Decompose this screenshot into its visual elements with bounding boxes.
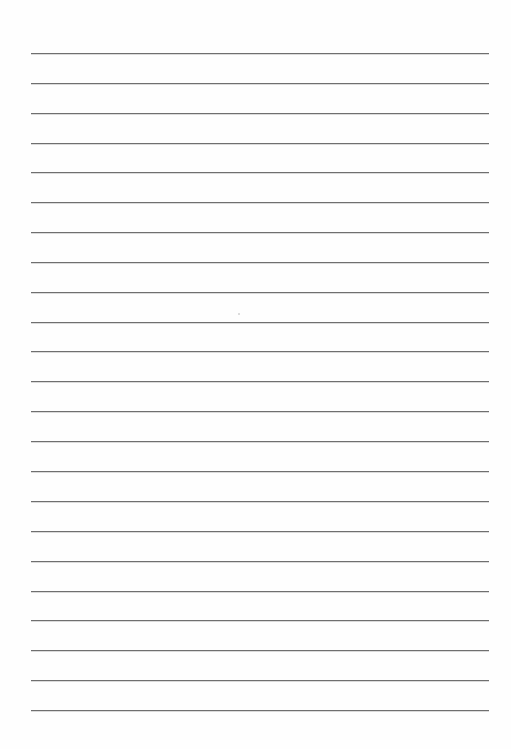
ruled-line <box>31 113 489 114</box>
ruled-line <box>31 680 489 681</box>
ruled-line <box>31 381 489 382</box>
ruled-line <box>31 172 489 173</box>
ruled-line <box>31 531 489 532</box>
ruled-line <box>31 322 489 323</box>
ruled-line <box>31 262 489 263</box>
ruled-line <box>31 53 489 54</box>
ruled-line <box>31 232 489 233</box>
paper-speck <box>238 313 240 315</box>
ruled-line <box>31 501 489 502</box>
ruled-line <box>31 202 489 203</box>
ruled-line <box>31 441 489 442</box>
ruled-line <box>31 83 489 84</box>
ruled-line <box>31 620 489 621</box>
ruled-line <box>31 710 489 711</box>
ruled-line <box>31 292 489 293</box>
ruled-line <box>31 650 489 651</box>
ruled-line <box>31 411 489 412</box>
ruled-line <box>31 471 489 472</box>
ruled-line <box>31 143 489 144</box>
ruled-line <box>31 561 489 562</box>
lined-paper-page <box>0 0 511 749</box>
ruled-line <box>31 591 489 592</box>
ruled-line <box>31 351 489 352</box>
